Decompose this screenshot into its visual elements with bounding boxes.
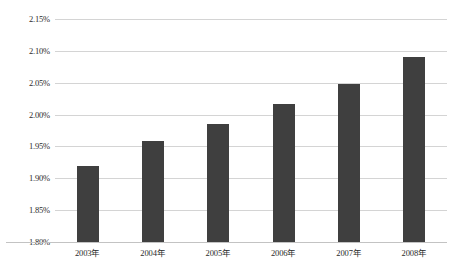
y-tick-label: 1.85% <box>2 205 50 215</box>
x-tick-label-2007: 2007年 <box>336 246 362 258</box>
y-axis: 2.15% 2.10% 2.05% 2.00% 1.95% 1.90% 1.85… <box>0 19 50 242</box>
axis-bottom-rule <box>6 242 447 243</box>
x-tick-label-2004: 2004年 <box>140 246 166 258</box>
bar-2004[interactable] <box>142 141 164 242</box>
bar-2003[interactable] <box>77 166 99 242</box>
y-tick-label: 2.10% <box>2 46 50 56</box>
x-tick-label-2003: 2003年 <box>75 246 101 258</box>
y-tick-label: 2.15% <box>2 14 50 24</box>
bar-2005[interactable] <box>207 124 229 242</box>
plot-area <box>55 19 447 242</box>
bar-2006[interactable] <box>273 104 295 242</box>
bar-2008[interactable] <box>403 57 425 242</box>
x-tick-label-2005: 2005年 <box>206 246 232 258</box>
x-tick-label-2008: 2008年 <box>402 246 428 258</box>
x-tick-label-2006: 2006年 <box>271 246 297 258</box>
y-tick-label: 1.95% <box>2 141 50 151</box>
bars-layer <box>55 19 447 242</box>
y-tick-label: 1.90% <box>2 173 50 183</box>
y-tick-label: 2.00% <box>2 110 50 120</box>
x-axis: 2003年 2004年 2005年 2006年 2007年 2008年 <box>55 244 447 262</box>
y-tick-label: 2.05% <box>2 78 50 88</box>
bar-chart: 2.15% 2.10% 2.05% 2.00% 1.95% 1.90% 1.85… <box>0 0 454 275</box>
bar-2007[interactable] <box>338 84 360 242</box>
